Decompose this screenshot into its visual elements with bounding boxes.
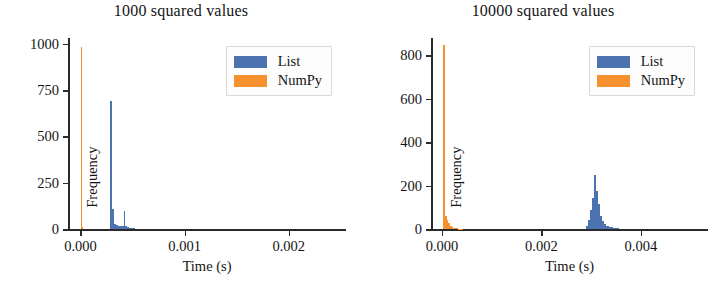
y-tick-label: 0 bbox=[52, 221, 59, 238]
legend-label-numpy: NumPy bbox=[278, 72, 322, 89]
y-tick-mark bbox=[426, 229, 431, 231]
plot-area-1000: Frequency Time (s) List NumPy 0250500750… bbox=[68, 38, 346, 231]
x-tick-label: 0.000 bbox=[64, 238, 97, 255]
y-tick-label: 0 bbox=[415, 221, 422, 238]
y-tick-label: 600 bbox=[400, 90, 422, 107]
x-tick-mark bbox=[185, 231, 187, 236]
x-axis-title: Time (s) bbox=[182, 258, 231, 275]
chart-panel-1000: 1000 squared values Frequency Time (s) L… bbox=[0, 0, 362, 286]
y-tick-mark bbox=[63, 136, 68, 138]
y-tick-mark bbox=[426, 142, 431, 144]
y-tick-label: 400 bbox=[400, 134, 422, 151]
legend-swatch-numpy bbox=[597, 75, 630, 87]
y-tick-mark bbox=[426, 186, 431, 188]
y-tick-mark bbox=[63, 90, 68, 92]
x-tick-mark bbox=[80, 231, 82, 236]
histogram-bar bbox=[443, 45, 445, 229]
x-tick-label: 0.001 bbox=[168, 238, 201, 255]
plot-area-10000: Frequency Time (s) List NumPy 0200400600… bbox=[431, 38, 708, 231]
chart-title: 1000 squared values bbox=[0, 1, 362, 21]
y-tick-label: 1000 bbox=[30, 35, 59, 52]
legend: List NumPy bbox=[226, 46, 332, 96]
legend-label-list: List bbox=[641, 53, 664, 70]
legend-label-list: List bbox=[278, 53, 301, 70]
histogram-bar bbox=[458, 229, 463, 230]
histogram-bar bbox=[613, 228, 619, 229]
histogram-bar bbox=[129, 228, 134, 229]
legend-swatch-list bbox=[597, 56, 630, 68]
x-axis-spine bbox=[431, 229, 708, 231]
legend-swatch-numpy bbox=[234, 75, 267, 87]
x-tick-mark bbox=[442, 231, 444, 236]
y-axis-title: Frequency bbox=[448, 147, 465, 208]
y-tick-mark bbox=[63, 229, 68, 231]
x-tick-label: 0.002 bbox=[525, 238, 558, 255]
chart-title: 10000 squared values bbox=[362, 1, 724, 21]
x-axis-spine bbox=[68, 229, 346, 231]
x-tick-mark bbox=[289, 231, 291, 236]
chart-panel-10000: 10000 squared values Frequency Time (s) … bbox=[362, 0, 724, 286]
x-tick-label: 0.002 bbox=[272, 238, 305, 255]
y-tick-mark bbox=[426, 99, 431, 101]
x-tick-mark bbox=[641, 231, 643, 236]
y-tick-label: 200 bbox=[400, 177, 422, 194]
legend-label-numpy: NumPy bbox=[641, 72, 685, 89]
legend-item-list: List bbox=[597, 52, 685, 71]
y-tick-label: 750 bbox=[37, 82, 59, 99]
x-axis-title: Time (s) bbox=[545, 258, 594, 275]
figure: 1000 squared values Frequency Time (s) L… bbox=[0, 0, 724, 286]
y-tick-mark bbox=[63, 44, 68, 46]
legend-item-numpy: NumPy bbox=[597, 71, 685, 90]
legend-item-list: List bbox=[234, 52, 322, 71]
y-tick-mark bbox=[426, 55, 431, 57]
legend-item-numpy: NumPy bbox=[234, 71, 322, 90]
x-tick-label: 0.000 bbox=[426, 238, 459, 255]
y-tick-label: 500 bbox=[37, 128, 59, 145]
histogram-bar bbox=[81, 47, 82, 229]
y-tick-label: 250 bbox=[37, 174, 59, 191]
x-tick-label: 0.004 bbox=[625, 238, 658, 255]
legend: List NumPy bbox=[589, 46, 695, 96]
y-axis-title: Frequency bbox=[84, 147, 101, 208]
histogram-bar bbox=[82, 227, 83, 229]
y-tick-label: 800 bbox=[400, 47, 422, 64]
y-tick-mark bbox=[63, 183, 68, 185]
x-tick-mark bbox=[541, 231, 543, 236]
legend-swatch-list bbox=[234, 56, 267, 68]
